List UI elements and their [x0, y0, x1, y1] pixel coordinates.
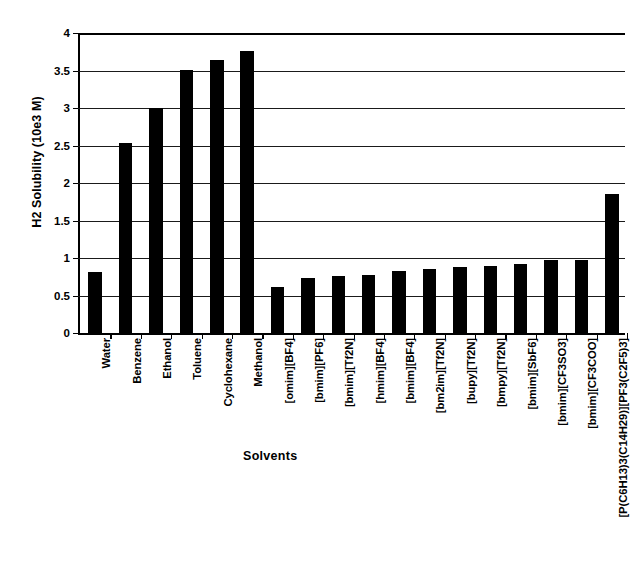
- bar: [453, 267, 467, 333]
- x-axis-category-label: [bmim][PF6]: [313, 338, 325, 403]
- x-axis-category-label: [bupy][Tf2N]: [465, 338, 477, 404]
- x-axis-category-label: [bm2im][Tf2N]: [434, 338, 446, 413]
- y-axis-tick: [73, 146, 78, 147]
- y-axis-tick-label: 4: [40, 27, 70, 39]
- y-axis-tick-label: 0: [40, 327, 70, 339]
- y-axis-tick: [73, 221, 78, 222]
- x-axis-category-label: Ethanol: [161, 338, 173, 379]
- gridline: [78, 33, 625, 35]
- bar: [362, 275, 376, 334]
- bar: [544, 260, 558, 334]
- y-axis-tick: [73, 108, 78, 109]
- bar: [240, 51, 254, 333]
- y-axis-tick-label: 2.5: [40, 140, 70, 152]
- bar: [119, 143, 133, 334]
- bar: [392, 271, 406, 333]
- x-axis-category-label: [bmim][CF3SO3]: [556, 338, 568, 426]
- x-axis-category-label: [bmim][Tf2N]: [343, 338, 355, 407]
- x-axis-category-labels: WaterBenzeneEthanolTolueneCyclohexaneMet…: [78, 338, 625, 578]
- y-axis-tick-label: 0.5: [40, 290, 70, 302]
- x-axis-category-label: Toluene: [191, 338, 203, 380]
- x-axis-category-label: Benzene: [131, 338, 143, 384]
- bar: [88, 272, 102, 334]
- bar: [301, 278, 315, 333]
- bar: [271, 287, 285, 333]
- x-axis-category-label: [omim][BF4]: [283, 338, 295, 403]
- x-axis-category-label: [bmim][CF3COO]: [586, 338, 598, 429]
- x-axis-category-label: [bmim][BF4]: [404, 338, 416, 403]
- bar: [575, 260, 589, 334]
- y-axis-tick-label: 1.5: [40, 215, 70, 227]
- bar: [605, 194, 619, 334]
- bar: [149, 108, 163, 333]
- x-axis-category-label: [bmim][SbF6]: [526, 338, 538, 410]
- x-axis-category-label: [P(C6H13)3(C14H29)][PF3(C2F5)3]: [617, 338, 629, 518]
- y-axis-tick: [73, 183, 78, 184]
- y-axis-tick-label: 1: [40, 252, 70, 264]
- y-axis-tick-label: 3: [40, 102, 70, 114]
- gridline: [78, 71, 625, 72]
- plot-area: 00.511.522.533.54: [78, 33, 625, 333]
- bar: [514, 264, 528, 333]
- y-axis-tick-label: 2: [40, 177, 70, 189]
- y-axis-tick: [73, 258, 78, 259]
- y-axis-tick-label: 3.5: [40, 65, 70, 77]
- x-axis-line: [78, 333, 625, 335]
- x-axis-title: Solvents: [243, 449, 298, 463]
- x-axis-category-label: Water: [100, 338, 112, 368]
- x-axis-category-label: [bmpy][Tf2N]: [495, 338, 507, 407]
- bar-chart: H2 Solubility (10e3 M) 00.511.522.533.54…: [0, 0, 644, 587]
- bar: [332, 276, 346, 333]
- y-axis-tick: [73, 333, 78, 334]
- y-axis-tick: [73, 296, 78, 297]
- x-axis-category-label: [hmim][BF4]: [374, 338, 386, 403]
- y-axis-tick: [73, 33, 78, 34]
- x-axis-category-label: Methanol: [252, 338, 264, 387]
- y-axis-title: H2 Solubility (10e3 M): [30, 62, 44, 262]
- bar: [423, 269, 437, 333]
- x-axis-category-label: Cyclohexane: [222, 338, 234, 407]
- y-axis-tick: [73, 71, 78, 72]
- bar: [484, 266, 498, 333]
- bar: [210, 60, 224, 333]
- bar: [180, 70, 194, 333]
